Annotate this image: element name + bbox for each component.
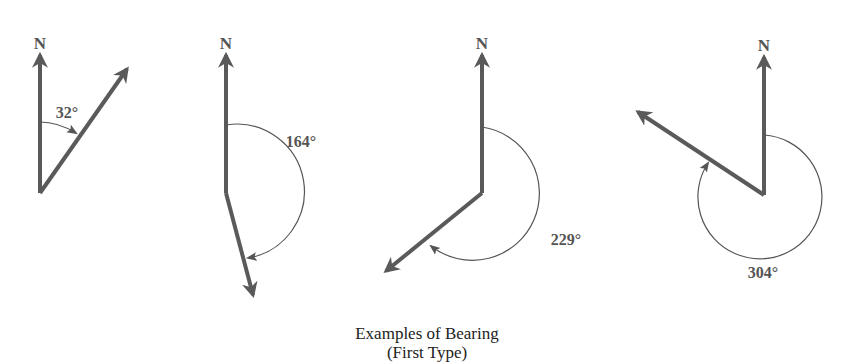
- bearing-example-304: [638, 57, 822, 259]
- bearing-angle-label: 164°: [286, 133, 316, 151]
- bearing-arrow: [638, 112, 764, 195]
- angle-arc: [431, 127, 539, 260]
- north-label: N: [758, 36, 770, 56]
- north-label: N: [220, 34, 232, 54]
- bearing-example-164: [226, 55, 304, 295]
- bearing-angle-label: 229°: [551, 231, 581, 249]
- bearing-diagram-canvas: N N N N 32° 164° 229° 304° Examples of B…: [0, 0, 854, 364]
- bearing-example-229: [386, 55, 539, 271]
- bearing-example-32: [40, 55, 127, 193]
- bearing-arrow: [386, 193, 482, 271]
- figure-caption-title: Examples of Bearing: [0, 324, 854, 343]
- figure-caption-subtitle: (First Type): [0, 343, 854, 362]
- bearing-angle-label: 304°: [748, 264, 778, 282]
- angle-arc: [40, 122, 76, 133]
- bearing-arrow: [226, 193, 253, 295]
- bearing-angle-label: 32°: [56, 104, 78, 122]
- bearing-arrow: [40, 69, 127, 193]
- bearing-diagrams-svg: [0, 0, 854, 364]
- angle-arc: [698, 135, 822, 259]
- north-label: N: [476, 34, 488, 54]
- north-label: N: [34, 34, 46, 54]
